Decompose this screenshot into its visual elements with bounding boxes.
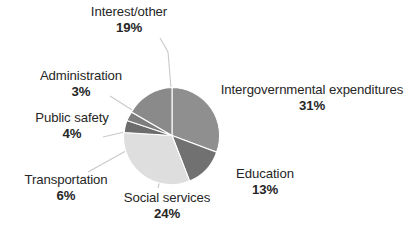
pie-label-administration-name: Administration xyxy=(6,68,156,84)
pie-label-public-safety: Public safety 4% xyxy=(2,110,142,141)
pie-label-intergovernmental-expenditures-value: 31% xyxy=(205,98,419,114)
pie-label-administration: Administration 3% xyxy=(6,68,156,99)
leader-line-interest-other xyxy=(160,38,171,88)
pie-label-interest-other-value: 19% xyxy=(49,20,209,36)
pie-label-interest-other-name: Interest/other xyxy=(49,4,209,20)
pie-label-education: Education 13% xyxy=(200,166,330,197)
pie-label-education-name: Education xyxy=(200,166,330,182)
pie-label-intergovernmental-expenditures-name: Intergovernmental expenditures xyxy=(205,82,419,98)
pie-label-education-value: 13% xyxy=(200,182,330,198)
pie-label-social-services-value: 24% xyxy=(94,206,240,222)
pie-chart-figure: Interest/other 19% Administration 3% Pub… xyxy=(0,0,419,237)
pie-label-intergovernmental-expenditures: Intergovernmental expenditures 31% xyxy=(205,82,419,113)
pie-label-administration-value: 3% xyxy=(6,84,156,100)
pie-label-interest-other: Interest/other 19% xyxy=(49,4,209,35)
pie-label-transportation-name: Transportation xyxy=(0,172,136,188)
pie-label-public-safety-name: Public safety xyxy=(2,110,142,126)
pie-label-public-safety-value: 4% xyxy=(2,126,142,142)
